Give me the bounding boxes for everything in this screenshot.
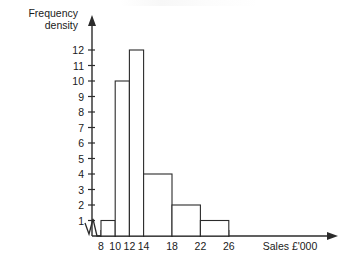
axis-break-squiggle-icon bbox=[85, 219, 101, 236]
y-tick-label-9: 9 bbox=[78, 91, 84, 103]
y-tick-label-10: 10 bbox=[72, 75, 84, 87]
chart-canvas: 1 2 3 4 5 6 7 8 9 10 11 12 8 10 12 bbox=[0, 0, 362, 257]
x-tick-label-8: 8 bbox=[98, 240, 104, 252]
bar-bin-8-10 bbox=[101, 221, 115, 237]
y-tick-label-7: 7 bbox=[78, 122, 84, 134]
y-axis-tick-labels: 1 2 3 4 5 6 7 8 9 10 11 12 bbox=[72, 44, 84, 227]
x-tick-label-22: 22 bbox=[195, 240, 207, 252]
x-axis-arrow-icon bbox=[327, 232, 338, 240]
bar-bin-22-26 bbox=[200, 221, 228, 237]
bar-bin-10-12 bbox=[115, 81, 129, 236]
y-tick-label-4: 4 bbox=[78, 168, 84, 180]
y-tick-label-11: 11 bbox=[73, 60, 84, 72]
y-tick-label-3: 3 bbox=[78, 184, 84, 196]
y-axis-arrow-icon bbox=[88, 15, 96, 26]
bar-bin-18-22 bbox=[172, 205, 200, 236]
x-tick-label-18: 18 bbox=[166, 240, 178, 252]
histogram-bars bbox=[101, 50, 229, 236]
y-axis bbox=[88, 15, 96, 236]
y-tick-label-2: 2 bbox=[78, 199, 84, 211]
x-tick-label-12: 12 bbox=[124, 240, 136, 252]
bar-bin-14-18 bbox=[144, 174, 172, 236]
y-tick-label-5: 5 bbox=[78, 153, 84, 165]
y-tick-label-1: 1 bbox=[78, 215, 84, 227]
y-tick-label-8: 8 bbox=[78, 106, 84, 118]
x-tick-label-26: 26 bbox=[223, 240, 235, 252]
y-tick-label-12: 12 bbox=[72, 44, 84, 56]
histogram-chart: 1 2 3 4 5 6 7 8 9 10 11 12 8 10 12 bbox=[0, 0, 362, 257]
x-tick-label-10: 10 bbox=[109, 240, 121, 252]
y-axis-title-line-1: Frequency bbox=[28, 7, 78, 19]
y-axis-title: Frequency density bbox=[28, 7, 78, 31]
x-axis-title: Sales £'000 bbox=[263, 240, 318, 252]
y-tick-label-6: 6 bbox=[78, 137, 84, 149]
y-axis-title-line-2: density bbox=[45, 19, 79, 31]
x-tick-label-14: 14 bbox=[138, 240, 150, 252]
bar-bin-12-14 bbox=[129, 50, 143, 236]
x-axis-tick-labels: 8 10 12 14 18 22 26 bbox=[98, 240, 235, 252]
